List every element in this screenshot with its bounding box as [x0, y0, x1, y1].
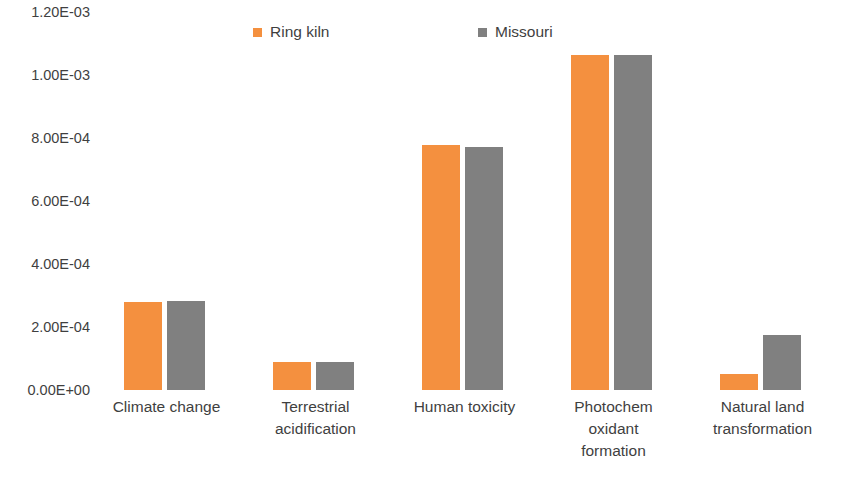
x-axis-tick-label-line: Human toxicity: [390, 396, 539, 418]
y-axis-tick-label: 4.00E-04: [4, 257, 90, 271]
x-axis-tick-label: Natural landtransformation: [688, 396, 837, 440]
y-axis-tick-label: 6.00E-04: [4, 194, 90, 208]
x-axis-tick-label-line: Climate change: [92, 396, 241, 418]
x-axis-tick-label-line: Photochem: [539, 396, 688, 418]
bar[interactable]: [422, 145, 460, 390]
y-axis-tick-label: 2.00E-04: [4, 320, 90, 334]
y-axis: 1.20E-031.00E-038.00E-046.00E-044.00E-04…: [0, 0, 90, 483]
y-axis-tick-label: 1.20E-03: [4, 5, 90, 19]
x-axis-tick-label: Terrestrialacidification: [241, 396, 390, 440]
bar[interactable]: [763, 335, 801, 390]
x-axis-tick-label-line: oxidant: [539, 418, 688, 440]
y-axis-tick-label: 8.00E-04: [4, 131, 90, 145]
plot-area: [92, 12, 837, 390]
bar-group: [241, 12, 390, 390]
bar-chart: Ring kiln Missouri 1.20E-031.00E-038.00E…: [0, 0, 841, 483]
bar[interactable]: [465, 147, 503, 390]
x-axis-tick-label-line: acidification: [241, 418, 390, 440]
bar[interactable]: [614, 55, 652, 390]
bar-group: [390, 12, 539, 390]
x-axis-tick-label: Climate change: [92, 396, 241, 418]
bar[interactable]: [273, 362, 311, 390]
bar[interactable]: [124, 302, 162, 390]
bar-group: [92, 12, 241, 390]
x-axis-tick-label-line: transformation: [688, 418, 837, 440]
x-axis-tick-label-line: Terrestrial: [241, 396, 390, 418]
bar-group: [539, 12, 688, 390]
x-axis-tick-label-line: formation: [539, 440, 688, 462]
bar[interactable]: [571, 55, 609, 390]
x-axis-tick-label: Human toxicity: [390, 396, 539, 418]
x-axis: Climate changeTerrestrialacidificationHu…: [92, 396, 837, 483]
bar-group: [688, 12, 837, 390]
y-axis-tick-label: 0.00E+00: [4, 383, 90, 397]
bar[interactable]: [167, 301, 205, 390]
y-axis-tick-label: 1.00E-03: [4, 68, 90, 82]
bar[interactable]: [720, 374, 758, 390]
bar[interactable]: [316, 362, 354, 390]
x-axis-tick-label: Photochemoxidantformation: [539, 396, 688, 462]
x-axis-tick-label-line: Natural land: [688, 396, 837, 418]
